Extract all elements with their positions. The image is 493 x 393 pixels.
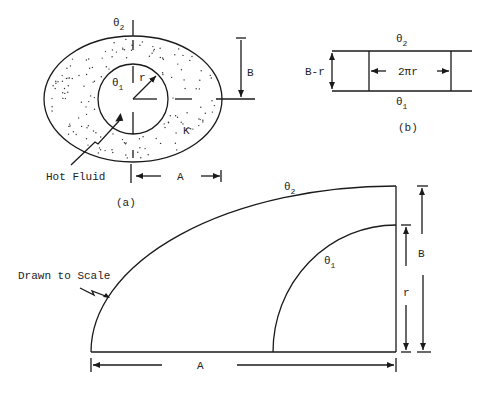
b-label-a: B bbox=[247, 67, 254, 79]
figure-a: θ2 θ1 r B K A Hot Fluid (a) bbox=[44, 17, 255, 209]
inner-arc bbox=[273, 225, 396, 352]
scale-pointer-arrow bbox=[80, 288, 108, 297]
theta2-label-b: θ2 bbox=[396, 33, 408, 48]
theta2-label-c: θ2 bbox=[284, 181, 296, 196]
figure-b: θ2 θ1 B-r 2πr (b) bbox=[305, 33, 472, 134]
theta2-label-a: θ2 bbox=[113, 17, 125, 32]
outer-arc bbox=[91, 186, 396, 352]
a-label-a: A bbox=[177, 171, 184, 183]
caption-b: (b) bbox=[398, 122, 418, 134]
height-label-b: B-r bbox=[305, 66, 325, 78]
r-label-a: r bbox=[139, 72, 146, 84]
width-label-b: 2πr bbox=[398, 66, 418, 78]
theta1-label-b: θ1 bbox=[396, 96, 408, 111]
caption-a: (a) bbox=[116, 197, 136, 209]
r-label-c: r bbox=[403, 287, 410, 299]
figure-c: θ2 θ1 Drawn to Scale A B r bbox=[18, 181, 431, 372]
hot-fluid-label: Hot Fluid bbox=[46, 171, 105, 183]
b-label-c: B bbox=[418, 248, 425, 260]
k-label: K bbox=[183, 125, 190, 137]
diagram-canvas: θ2 θ1 r B K A Hot Fluid (a) θ2 θ1 B-r 2π… bbox=[0, 0, 493, 393]
theta1-label-c: θ1 bbox=[324, 255, 336, 270]
theta1-label-a: θ1 bbox=[112, 77, 124, 92]
a-label-c: A bbox=[197, 360, 204, 372]
drawn-to-scale-label: Drawn to Scale bbox=[18, 270, 110, 282]
